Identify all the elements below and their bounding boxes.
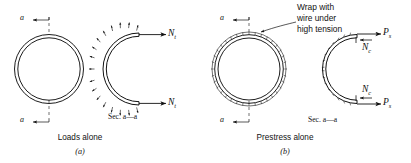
annotation-leader-line bbox=[261, 22, 296, 32]
section-marker-top-a bbox=[33, 17, 49, 20]
force-label-nt-bottom: Nt bbox=[168, 97, 176, 109]
panel-b bbox=[211, 17, 381, 122]
section-marker-top-b bbox=[233, 17, 249, 20]
force-arrow-nc-bottom bbox=[356, 95, 372, 101]
force-label-ps-top: Ps bbox=[383, 27, 391, 39]
annotation-line-2: wire under bbox=[297, 14, 336, 23]
force-label-nc-top: Nc bbox=[362, 42, 371, 54]
half-ring-a bbox=[103, 33, 139, 105]
section-mark-bottom-b: a bbox=[220, 116, 224, 125]
caption-a: Loads alone bbox=[10, 133, 150, 142]
caption-b: Prestress alone bbox=[205, 133, 365, 142]
panel-letter-b: (b) bbox=[205, 147, 365, 156]
ring-full-b bbox=[211, 32, 287, 106]
force-subscript: t bbox=[174, 102, 176, 109]
section-label-b: Sec. a—a bbox=[308, 116, 337, 125]
half-ring-b bbox=[322, 33, 357, 106]
force-subscript: s bbox=[389, 102, 392, 109]
force-subscript: t bbox=[174, 33, 176, 40]
section-marker-bottom-a bbox=[33, 119, 49, 122]
section-mark-top-a: a bbox=[20, 14, 24, 23]
pressure-arrows-a bbox=[89, 23, 138, 116]
ring-full-a bbox=[15, 35, 84, 104]
section-mark-top-b: a bbox=[220, 14, 224, 23]
panel-a bbox=[15, 17, 167, 122]
force-label-nt-top: Nt bbox=[168, 28, 176, 40]
section-label-a: Sec. a—a bbox=[108, 113, 137, 122]
force-subscript: c bbox=[368, 89, 371, 96]
annotation-line-3: high tension bbox=[297, 25, 342, 34]
section-marker-bottom-b bbox=[233, 119, 249, 122]
annotation-line-1: Wrap with bbox=[297, 3, 334, 12]
force-subscript: s bbox=[389, 32, 392, 39]
force-label-nc-bottom: Nc bbox=[362, 84, 371, 96]
force-subscript: c bbox=[368, 47, 371, 54]
force-label-ps-bottom: Ps bbox=[383, 97, 391, 109]
panel-letter-a: (a) bbox=[10, 147, 150, 156]
section-mark-bottom-a: a bbox=[20, 116, 24, 125]
